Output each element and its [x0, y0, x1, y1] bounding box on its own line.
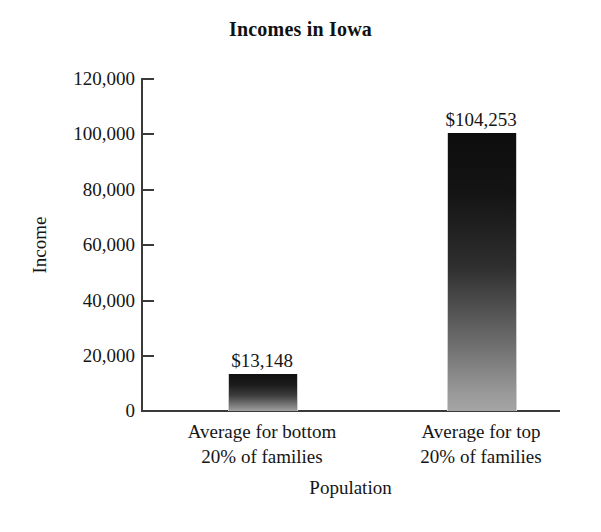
- y-tick-label-40000: 40,000: [83, 290, 135, 312]
- y-tick-label-0: 0: [126, 400, 136, 422]
- y-tick-label-80000: 80,000: [83, 179, 135, 201]
- chart-title: Incomes in Iowa: [0, 18, 601, 41]
- y-tick-label-20000: 20,000: [83, 345, 135, 367]
- bar-value-label-top-20: $104,253: [415, 109, 547, 131]
- x-category-label-bottom-20: Average for bottom 20% of families: [165, 419, 359, 469]
- y-tick-label-120000: 120,000: [73, 68, 135, 90]
- bar-chart: Incomes in Iowa Income 120,000 100,000 8…: [0, 0, 601, 532]
- y-tick-120000: [143, 78, 154, 80]
- y-tick-40000: [143, 300, 154, 302]
- y-tick-80000: [143, 189, 154, 191]
- x-category-label-top-20: Average for top 20% of families: [384, 419, 578, 469]
- y-tick-label-60000: 60,000: [83, 234, 135, 256]
- y-tick-60000: [143, 244, 154, 246]
- y-tick-label-100000: 100,000: [73, 123, 135, 145]
- x-category-label-bottom-20-line2: 20% of families: [165, 444, 359, 469]
- y-axis-title: Income: [29, 217, 51, 274]
- y-tick-100000: [143, 133, 154, 135]
- x-category-label-top-20-line2: 20% of families: [384, 444, 578, 469]
- y-tick-20000: [143, 355, 154, 357]
- x-axis-title: Population: [141, 477, 560, 499]
- bar-value-label-bottom-20: $13,148: [196, 350, 328, 372]
- x-category-label-top-20-line1: Average for top: [384, 419, 578, 444]
- bar-average-bottom-20: [228, 374, 298, 411]
- bar-average-top-20: [447, 133, 517, 411]
- x-category-label-bottom-20-line1: Average for bottom: [165, 419, 359, 444]
